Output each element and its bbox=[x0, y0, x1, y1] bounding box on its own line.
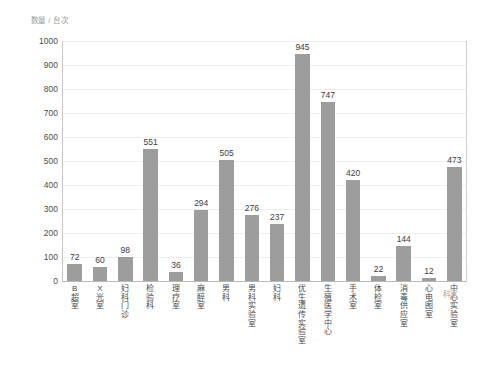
y-axis-tick-label: 0 bbox=[24, 277, 58, 286]
x-axis-tick-label: 心电图室 bbox=[423, 285, 435, 320]
bar-value-label: 294 bbox=[194, 199, 208, 208]
bar-column[interactable]: 22 bbox=[371, 41, 386, 281]
bar-column[interactable]: 36 bbox=[169, 41, 184, 281]
x-axis-tick-label: 男科实验室 bbox=[246, 285, 258, 328]
x-axis-tick-label: 优生遗传实验室 bbox=[296, 285, 308, 345]
bar-column[interactable]: 60 bbox=[93, 41, 108, 281]
y-axis-tick-label: 600 bbox=[24, 133, 58, 142]
x-axis-tick-label: 妇科 bbox=[271, 285, 283, 302]
y-axis-tick-label: 800 bbox=[24, 85, 58, 94]
bar-column[interactable]: 551 bbox=[143, 41, 158, 281]
bar-series: 7260985513629450527623794574742022144124… bbox=[62, 41, 467, 281]
bar[interactable] bbox=[295, 54, 310, 281]
bar-column[interactable]: 12 bbox=[422, 41, 437, 281]
bar-value-label: 98 bbox=[121, 246, 130, 255]
bar-value-label: 420 bbox=[346, 169, 360, 178]
x-axis-tick-label: 体检室 bbox=[372, 285, 384, 311]
bar-column[interactable]: 72 bbox=[67, 41, 82, 281]
x-axis-tick-label: 手术室 bbox=[347, 285, 359, 311]
bar-column[interactable]: 747 bbox=[321, 41, 336, 281]
x-axis-tick-label: X光室 bbox=[94, 285, 106, 311]
bar-column[interactable]: 505 bbox=[219, 41, 234, 281]
bar-chart: 数量 / 台次 10009008007006005004003002001000… bbox=[0, 0, 497, 378]
bar-value-label: 237 bbox=[270, 213, 284, 222]
x-axis-tick-label: 生殖医学中心 bbox=[322, 285, 334, 337]
bar[interactable] bbox=[143, 149, 158, 281]
y-axis-tick-label: 100 bbox=[24, 253, 58, 262]
bar[interactable] bbox=[169, 272, 184, 281]
bar-value-label: 473 bbox=[447, 156, 461, 165]
bar-value-label: 60 bbox=[95, 256, 104, 265]
y-axis-tick-label: 500 bbox=[24, 157, 58, 166]
y-axis-tick-label: 700 bbox=[24, 109, 58, 118]
bar[interactable] bbox=[93, 267, 108, 281]
bar[interactable] bbox=[118, 257, 133, 281]
bar[interactable] bbox=[194, 210, 209, 281]
bar[interactable] bbox=[67, 264, 82, 281]
x-axis-tick-label: 麻醉室 bbox=[195, 285, 207, 311]
x-axis-tick-label: 检验科 bbox=[145, 285, 157, 311]
y-axis-tick-label: 900 bbox=[24, 61, 58, 70]
bar-column[interactable]: 98 bbox=[118, 41, 133, 281]
bar-value-label: 144 bbox=[397, 235, 411, 244]
bar-column[interactable]: 144 bbox=[396, 41, 411, 281]
bar-value-label: 551 bbox=[144, 138, 158, 147]
y-axis-tick-label: 200 bbox=[24, 229, 58, 238]
bar-column[interactable]: 237 bbox=[270, 41, 285, 281]
bar[interactable] bbox=[270, 224, 285, 281]
y-axis-tick-label: 300 bbox=[24, 205, 58, 214]
bar-value-label: 72 bbox=[70, 253, 79, 262]
bar[interactable] bbox=[346, 180, 361, 281]
x-axis-tick-label: 妇科门诊 bbox=[119, 285, 131, 320]
bar[interactable] bbox=[396, 246, 411, 281]
bar-value-label: 505 bbox=[219, 149, 233, 158]
bar-value-label: 22 bbox=[374, 265, 383, 274]
bar[interactable] bbox=[219, 160, 234, 281]
bar[interactable] bbox=[447, 167, 462, 281]
bar[interactable] bbox=[371, 276, 386, 281]
bar-column[interactable]: 294 bbox=[194, 41, 209, 281]
bar-column[interactable]: 276 bbox=[245, 41, 260, 281]
x-axis-category-labels: B超室X光室妇科门诊检验科理疗室麻醉室男科男科实验室妇科优生遗传实验室生殖医学中… bbox=[62, 285, 467, 375]
x-axis-tick-label: 男科 bbox=[221, 285, 233, 302]
x-axis-tick-label: 理疗室 bbox=[170, 285, 182, 311]
x-axis-tick-label: 消毒供应室 bbox=[398, 285, 410, 328]
x-axis-line bbox=[62, 281, 467, 282]
bar-column[interactable]: 420 bbox=[346, 41, 361, 281]
y-axis-tick-label: 400 bbox=[24, 181, 58, 190]
bar-column[interactable]: 473 bbox=[447, 41, 462, 281]
bar-column[interactable]: 945 bbox=[295, 41, 310, 281]
bar[interactable] bbox=[245, 215, 260, 281]
bar-value-label: 36 bbox=[171, 261, 180, 270]
bar[interactable] bbox=[321, 102, 336, 281]
x-axis-title: 科室 bbox=[443, 288, 457, 299]
bar-value-label: 12 bbox=[424, 267, 433, 276]
y-axis-ticks: 10009008007006005004003002001000 bbox=[20, 41, 58, 281]
y-axis-tick-label: 1000 bbox=[24, 37, 58, 46]
y-axis-unit-label: 数量 / 台次 bbox=[31, 14, 68, 25]
bar[interactable] bbox=[422, 278, 437, 281]
bar-value-label: 276 bbox=[245, 204, 259, 213]
bar-value-label: 945 bbox=[295, 43, 309, 52]
x-axis-tick-label: B超室 bbox=[69, 285, 81, 311]
bar-value-label: 747 bbox=[321, 91, 335, 100]
